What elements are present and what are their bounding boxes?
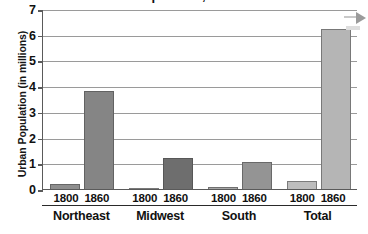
bar-midwest-1860 bbox=[163, 158, 193, 189]
bar-total-1800 bbox=[287, 181, 317, 189]
x-year-label: 1800 bbox=[54, 192, 79, 204]
bar-south-1800 bbox=[208, 187, 238, 189]
gridline bbox=[43, 10, 357, 11]
y-tick-label: 2 bbox=[29, 132, 36, 145]
x-year-label: 1800 bbox=[211, 192, 236, 204]
arrow-head bbox=[356, 12, 366, 24]
x-axis-labels: 18001860Northeast18001860Midwest18001860… bbox=[42, 192, 357, 234]
y-tick-label: 4 bbox=[29, 81, 36, 94]
y-tick-label: 5 bbox=[29, 55, 36, 68]
gridline bbox=[43, 36, 357, 37]
x-year-label: 1800 bbox=[132, 192, 157, 204]
x-year-label: 1860 bbox=[84, 192, 109, 204]
x-group-years: 18001860 bbox=[121, 192, 200, 206]
bar-south-1860 bbox=[242, 162, 272, 189]
y-tick-label: 1 bbox=[29, 158, 36, 171]
x-group-years: 18001860 bbox=[42, 192, 121, 206]
bar-total-1860 bbox=[321, 29, 351, 189]
y-tick-mark bbox=[38, 113, 43, 115]
edge-artifact bbox=[346, 26, 360, 30]
arrow-right-icon bbox=[344, 12, 366, 26]
cropped-title-strip: Urban Population, 1800–1860 bbox=[0, 0, 368, 9]
y-tick-label: 7 bbox=[29, 4, 36, 17]
y-tick-mark bbox=[38, 10, 43, 12]
y-tick-label: 3 bbox=[29, 107, 36, 120]
x-group-northeast: 18001860Northeast bbox=[42, 192, 121, 223]
y-tick-mark bbox=[38, 87, 43, 89]
y-tick-mark bbox=[38, 139, 43, 141]
x-group-years: 18001860 bbox=[200, 192, 279, 206]
x-year-label: 1800 bbox=[290, 192, 315, 204]
x-region-label: Total bbox=[278, 209, 357, 223]
x-year-label: 1860 bbox=[242, 192, 267, 204]
gridline bbox=[43, 87, 357, 88]
y-tick-label: 0 bbox=[29, 184, 36, 197]
y-tick-mark bbox=[38, 164, 43, 166]
x-group-south: 18001860South bbox=[200, 192, 279, 223]
x-year-label: 1860 bbox=[163, 192, 188, 204]
y-tick-mark bbox=[38, 61, 43, 63]
plot-area: 76543210 bbox=[42, 10, 357, 190]
bar-chart-figure: Urban Population, 1800–1860 Urban Popula… bbox=[0, 0, 368, 234]
y-tick-label: 6 bbox=[29, 29, 36, 42]
y-tick-mark bbox=[38, 36, 43, 38]
x-region-label: Northeast bbox=[42, 209, 121, 223]
x-region-label: Midwest bbox=[121, 209, 200, 223]
gridline bbox=[43, 61, 357, 62]
bar-northeast-1860 bbox=[84, 91, 114, 189]
y-axis-title: Urban Population (in millions) bbox=[16, 12, 28, 196]
chart-title: Urban Population, 1800–1860 bbox=[0, 0, 368, 3]
x-year-label: 1860 bbox=[321, 192, 346, 204]
x-group-years: 18001860 bbox=[278, 192, 357, 206]
x-group-midwest: 18001860Midwest bbox=[121, 192, 200, 223]
bar-northeast-1800 bbox=[50, 184, 80, 189]
x-region-label: South bbox=[200, 209, 279, 223]
bar-midwest-1800 bbox=[129, 188, 159, 190]
x-group-total: 18001860Total bbox=[278, 192, 357, 223]
